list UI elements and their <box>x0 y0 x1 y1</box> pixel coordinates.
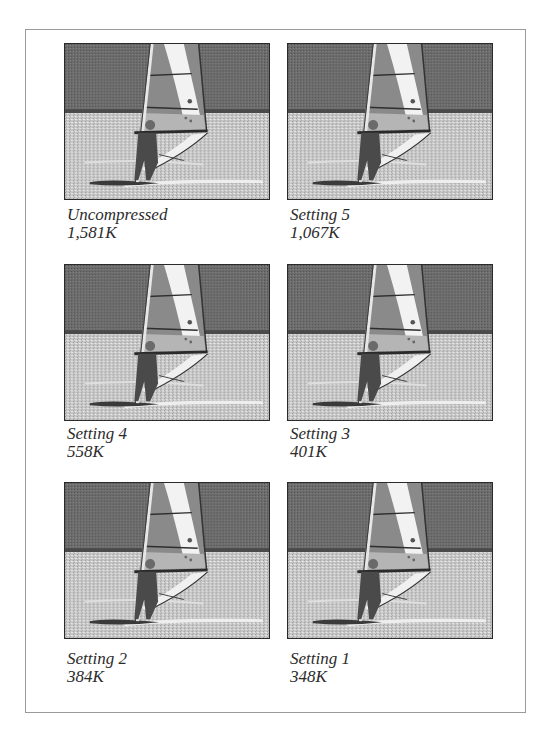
panel-size: 401K <box>290 443 350 461</box>
windsurfer-photo <box>64 482 270 639</box>
panel-label: Setting 5 <box>290 206 350 224</box>
panel-size: 384K <box>67 668 127 686</box>
windsurfer-photo <box>64 264 270 421</box>
panel-label: Setting 3 <box>290 425 350 443</box>
panel-caption: Setting 5 1,067K <box>290 206 350 242</box>
panel-size: 348K <box>290 668 350 686</box>
panel-label: Setting 2 <box>67 650 127 668</box>
panel-caption: Setting 1 348K <box>290 650 350 686</box>
panel-label: Uncompressed <box>67 206 167 224</box>
panel-caption: Setting 3 401K <box>290 425 350 461</box>
windsurfer-photo <box>287 264 493 421</box>
panel-caption: Setting 4 558K <box>67 425 127 461</box>
panel-label: Setting 1 <box>290 650 350 668</box>
panel-size: 558K <box>67 443 127 461</box>
windsurfer-photo <box>287 43 493 200</box>
windsurfer-photo <box>64 43 270 200</box>
panel-caption: Uncompressed 1,581K <box>67 206 167 242</box>
panel-caption: Setting 2 384K <box>67 650 127 686</box>
windsurfer-photo <box>287 482 493 639</box>
panel-size: 1,067K <box>290 224 350 242</box>
panel-size: 1,581K <box>67 224 167 242</box>
panel-label: Setting 4 <box>67 425 127 443</box>
